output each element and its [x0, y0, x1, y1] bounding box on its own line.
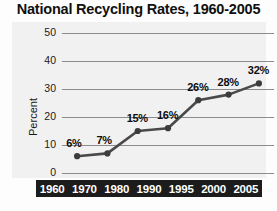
- data-point-marker: [74, 153, 80, 159]
- data-point-label: 16%: [157, 109, 178, 121]
- x-axis-tick-label: 1990: [133, 183, 165, 195]
- chart-title: National Recycling Rates, 1960-2005: [0, 1, 277, 17]
- data-point-marker: [256, 80, 262, 86]
- x-axis-tick-label: 1960: [36, 183, 68, 195]
- y-axis-tick-label: 20: [16, 111, 56, 122]
- data-point-label: 28%: [218, 76, 239, 88]
- y-axis-tick-label: 10: [16, 139, 56, 150]
- data-point-label: 32%: [248, 64, 269, 76]
- y-axis-tick-label: 0: [16, 167, 56, 178]
- data-point-label: 26%: [187, 81, 208, 93]
- x-axis-tick-label: 2005: [230, 183, 262, 195]
- data-point-marker: [104, 150, 110, 156]
- x-axis-label-bar: 1960197019801990199520002005: [36, 180, 262, 197]
- data-point-label: 7%: [96, 134, 111, 146]
- plot-area: 50403020100 6%7%15%16%26%28%32%: [62, 33, 274, 173]
- data-point-marker: [135, 128, 141, 134]
- data-point-label: 15%: [127, 112, 148, 124]
- gridline: [62, 173, 274, 174]
- x-axis-tick-label: 1970: [68, 183, 100, 195]
- y-axis-tick-label: 30: [16, 83, 56, 94]
- plot-panel: Percent 50403020100 6%7%15%16%26%28%32%: [12, 22, 266, 178]
- x-axis-tick-label: 1995: [165, 183, 197, 195]
- x-axis-tick-label: 1980: [101, 183, 133, 195]
- y-axis-tick-label: 50: [16, 27, 56, 38]
- data-point-label: 6%: [66, 137, 81, 149]
- line-series: [62, 33, 274, 173]
- y-axis-tick-label: 40: [16, 55, 56, 66]
- data-point-marker: [226, 92, 232, 98]
- chart-figure: National Recycling Rates, 1960-2005 Perc…: [0, 0, 277, 211]
- x-axis-tick-label: 2000: [197, 183, 229, 195]
- data-point-marker: [195, 97, 201, 103]
- data-point-marker: [165, 125, 171, 131]
